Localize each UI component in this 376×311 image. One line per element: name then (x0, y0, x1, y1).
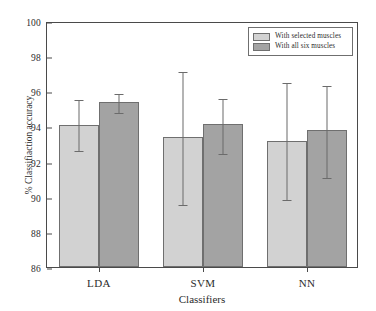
y-tick-label: 94 (31, 123, 47, 133)
y-tick-label: 100 (26, 18, 47, 28)
error-bar-line (119, 94, 120, 113)
y-tick-label: 88 (31, 229, 47, 239)
y-axis-label: % Classifiaction accuracy (24, 96, 34, 195)
x-tick-label-nn: NN (299, 277, 316, 289)
error-bar-svm-series1 (163, 72, 203, 205)
y-tick-mark (47, 269, 52, 270)
error-bar-cap-upper (115, 94, 124, 95)
y-tick-mark (47, 163, 52, 164)
legend-item-1: With selected muscles (253, 32, 348, 41)
legend: With selected musclesWith all six muscle… (248, 27, 353, 56)
x-axis-label: Classifiers (179, 293, 225, 305)
legend-item-2: With all six muscles (253, 42, 348, 51)
y-tick-label: 86 (31, 264, 47, 274)
y-tick-label: 98 (31, 53, 47, 63)
error-bar-cap-upper (323, 86, 332, 87)
x-tick-label-svm: SVM (190, 277, 215, 289)
y-tick-mark (47, 128, 52, 129)
legend-label: With all six muscles (275, 42, 335, 51)
error-bar-cap-upper (283, 83, 292, 84)
error-bar-line (183, 72, 184, 205)
figure: % Classifiaction accuracy 86889092949698… (0, 0, 376, 311)
error-bar-line (79, 100, 80, 151)
y-tick-mark (47, 198, 52, 199)
x-tick-mark (307, 267, 308, 272)
y-tick-mark (47, 93, 52, 94)
y-tick-label: 96 (31, 88, 47, 98)
error-bar-cap-upper (219, 99, 228, 100)
x-tick-label-lda: LDA (87, 277, 111, 289)
error-bar-cap-lower (179, 205, 188, 206)
error-bar-cap-lower (115, 113, 124, 114)
error-bar-cap-lower (323, 178, 332, 179)
error-bar-nn-series1 (267, 83, 307, 201)
bar-lda-series2 (99, 102, 139, 267)
error-bar-cap-lower (219, 154, 228, 155)
error-bar-cap-lower (75, 151, 84, 152)
legend-swatch (253, 43, 270, 51)
y-tick-mark (47, 233, 52, 234)
x-tick-mark (99, 267, 100, 272)
plot-area: % Classifiaction accuracy 86889092949698… (46, 22, 358, 268)
error-bar-cap-upper (179, 72, 188, 73)
x-tick-mark (203, 267, 204, 272)
error-bar-svm-series2 (203, 99, 243, 154)
error-bar-nn-series2 (307, 86, 347, 177)
error-bar-cap-lower (283, 200, 292, 201)
y-tick-mark (47, 58, 52, 59)
error-bar-cap-upper (75, 100, 84, 101)
legend-swatch (253, 33, 270, 41)
error-bar-line (327, 86, 328, 177)
error-bar-lda-series2 (99, 94, 139, 113)
y-tick-label: 92 (31, 159, 47, 169)
error-bar-line (223, 99, 224, 154)
y-tick-mark (47, 23, 52, 24)
error-bar-lda-series1 (59, 100, 99, 151)
y-tick-label: 90 (31, 194, 47, 204)
error-bar-line (287, 83, 288, 201)
legend-label: With selected muscles (275, 32, 341, 41)
